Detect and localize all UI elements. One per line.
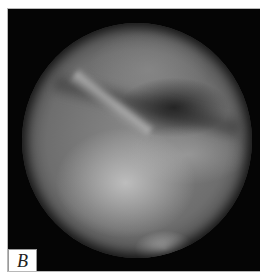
panel-label: B <box>17 252 28 270</box>
panel-label-box: B <box>8 249 37 272</box>
endoscopic-view <box>22 23 252 258</box>
figure-frame: B <box>7 8 260 272</box>
